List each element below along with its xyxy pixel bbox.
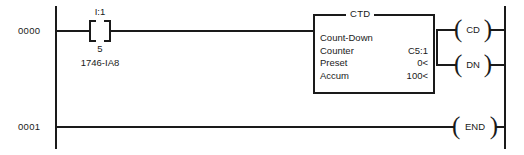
contact-address-label: I:1 (80, 6, 120, 17)
rung0-wire-left (55, 30, 89, 32)
output-branch-spine (436, 29, 438, 66)
row-value-counter: C5:1 (408, 45, 428, 58)
rung1-wire (55, 126, 454, 128)
contact-cap-top-right (104, 20, 111, 22)
cd-coil-wire-out (490, 29, 506, 31)
rung0-wire-mid (111, 30, 313, 32)
instruction-row-counter: Counter C5:1 (320, 45, 428, 58)
rung1-wire-out (496, 126, 506, 128)
contact-left-bar (89, 20, 91, 42)
instruction-row-count-down: Count-Down (320, 32, 428, 45)
contact-xic-i1-5[interactable] (89, 20, 111, 42)
instruction-row-accum: Accum 100< (320, 70, 428, 83)
contact-cap-bottom-right (104, 40, 111, 42)
instruction-mnemonic-ctd: CTD (346, 8, 374, 19)
rung-number-0000: 0000 (18, 25, 40, 36)
coil-dn-label: DN (454, 59, 492, 70)
dn-coil-wire-out (490, 64, 506, 66)
rung-number-0001: 0001 (18, 121, 40, 132)
instruction-row-preset: Preset 0< (320, 57, 428, 70)
row-label-preset: Preset (320, 57, 347, 70)
coil-end[interactable]: ( ) END (452, 114, 498, 140)
contact-bit-label: 5 (80, 43, 120, 54)
row-value-accum: 100< (407, 70, 428, 83)
contact-cap-bottom-left (89, 40, 96, 42)
cd-coil-wire-in (436, 29, 456, 31)
row-label-count-down: Count-Down (320, 32, 373, 45)
coil-cd-label: CD (454, 24, 492, 35)
contact-module-label: 1746-IA8 (62, 57, 138, 68)
coil-end-label: END (452, 121, 498, 132)
row-label-accum: Accum (320, 70, 349, 83)
ladder-diagram: 0000 I:1 5 1746-IA8 CTD Count-Down Count… (0, 0, 524, 155)
row-value-preset: 0< (417, 57, 428, 70)
row-label-counter: Counter (320, 45, 354, 58)
coil-dn[interactable]: ( ) DN (454, 52, 492, 78)
contact-cap-top-left (89, 20, 96, 22)
instruction-field-list: Count-Down Counter C5:1 Preset 0< Accum … (320, 32, 428, 82)
coil-cd[interactable]: ( ) CD (454, 17, 492, 43)
dn-coil-wire-in (436, 64, 456, 66)
